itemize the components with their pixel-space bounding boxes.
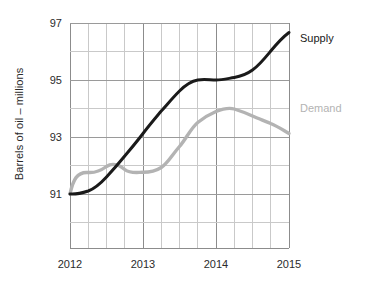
y-tick-label-95: 95 [36, 74, 62, 86]
legend-label-demand: Demand [300, 102, 342, 114]
y-tick-label-91: 91 [36, 188, 62, 200]
y-tick-label-97: 97 [36, 17, 62, 29]
x-tick-label-2014: 2014 [196, 258, 236, 270]
chart-figure: Barrels of oil – millions 97 95 93 91 20… [0, 0, 365, 288]
legend-label-supply: Supply [300, 32, 334, 44]
y-tick-label-93: 93 [36, 131, 62, 143]
x-tick-label-2012: 2012 [50, 258, 90, 270]
x-tick-label-2013: 2013 [123, 258, 163, 270]
x-tick-label-2015: 2015 [269, 258, 309, 270]
